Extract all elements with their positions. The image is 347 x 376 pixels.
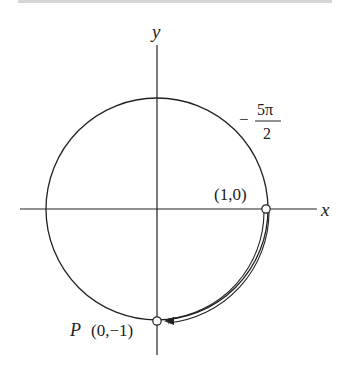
angle-denominator: 2	[263, 125, 271, 142]
arrowhead-icon	[164, 317, 174, 325]
y-axis-label: y	[150, 21, 161, 42]
start-point-label: (1,0)	[214, 185, 247, 204]
arc-path-arrow	[164, 212, 269, 325]
point-start	[262, 205, 270, 213]
angle-label: − 5π 2	[239, 101, 281, 142]
angle-numerator: 5π	[257, 101, 273, 118]
point-p	[153, 317, 161, 325]
x-axis-label: x	[320, 199, 330, 220]
point-p-name: P	[69, 320, 81, 340]
point-p-label: (0,−1)	[91, 321, 133, 340]
angle-sign: −	[239, 110, 249, 129]
unit-circle-diagram: y x (1,0) P (0,−1) − 5π 2	[0, 0, 347, 376]
